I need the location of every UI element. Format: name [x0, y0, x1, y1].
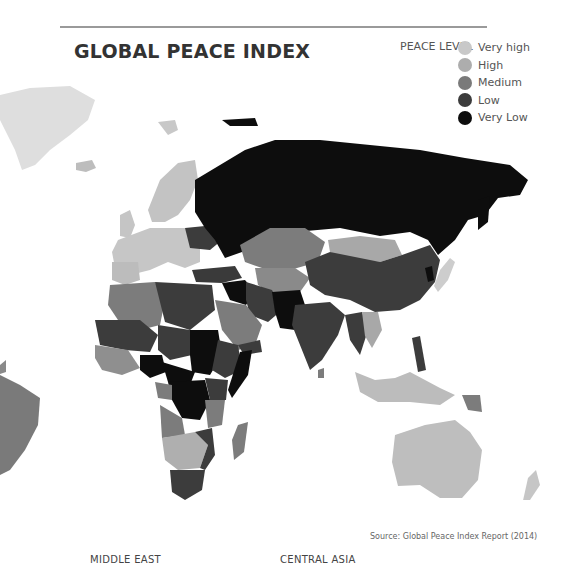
legend-swatch-very-high	[458, 41, 472, 55]
region-nigeria	[140, 355, 166, 378]
legend-item-low: Low	[458, 92, 530, 110]
page-title: GLOBAL PEACE INDEX	[74, 40, 310, 62]
legend-swatch-low	[458, 93, 472, 107]
region-iberia	[112, 262, 140, 285]
region-greenland	[0, 86, 95, 170]
region-india	[292, 302, 345, 370]
region-uk	[120, 210, 135, 238]
section-label-central-asia: CENTRAL ASIA	[280, 554, 356, 565]
region-brazil	[0, 375, 40, 475]
world-map	[0, 80, 567, 500]
region-new-zealand	[522, 470, 540, 500]
legend-swatch-high	[458, 58, 472, 72]
legend-swatch-medium	[458, 76, 472, 90]
legend-label: Very Low	[478, 111, 528, 124]
region-australia	[392, 420, 482, 498]
legend-label: High	[478, 59, 503, 72]
region-scandinavia	[148, 160, 198, 222]
region-south-africa	[170, 470, 205, 500]
top-caption: THE UNRESOLVED STATE OF EUROPE AND THE N…	[97, 0, 457, 2]
region-madagascar	[232, 422, 248, 460]
legend-item-very-low: Very Low	[458, 109, 530, 127]
legend-item-high: High	[458, 57, 530, 75]
legend-label: Very high	[478, 41, 530, 54]
section-label-middle-east: MIDDLE EAST	[90, 554, 161, 565]
region-indonesia	[355, 372, 455, 405]
legend-swatch-very-low	[458, 111, 472, 125]
legend-item-very-high: Very high	[458, 39, 530, 57]
region-philippines	[412, 336, 426, 372]
legend-list: Very high High Medium Low Very Low	[458, 39, 530, 127]
legend-label: Low	[478, 94, 500, 107]
region-libya-egypt	[155, 282, 215, 330]
legend-label: Medium	[478, 76, 522, 89]
region-iceland	[76, 160, 96, 172]
source-note: Source: Global Peace Index Report (2014)	[370, 532, 537, 541]
region-turkey	[192, 266, 242, 283]
legend-item-medium: Medium	[458, 74, 530, 92]
header-divider	[60, 26, 487, 28]
